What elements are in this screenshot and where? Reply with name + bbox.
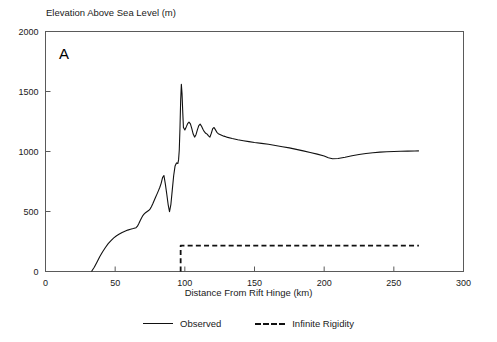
legend-swatch-solid [143,323,173,324]
x-tick-label: 0 [43,278,48,288]
legend-item: Observed [143,318,221,329]
x-tick-label: 150 [247,278,262,288]
legend-swatch-dashed [255,323,285,325]
series-line-1 [181,246,419,272]
panel-label: A [59,45,69,62]
y-tick-label: 500 [0,207,39,217]
legend-label: Infinite Rigidity [292,318,354,329]
y-axis-label: Elevation Above Sea Level (m) [46,7,176,18]
legend-label: Observed [180,318,221,329]
x-tick-label: 100 [177,278,192,288]
y-tick-label: 1500 [0,87,39,97]
y-tick-label: 2000 [0,27,39,37]
legend-item: Infinite Rigidity [255,318,354,329]
series-line-0 [91,84,418,271]
chart-legend: ObservedInfinite Rigidity [0,318,497,329]
y-tick-label: 1000 [0,147,39,157]
figure-container: Elevation Above Sea Level (m) A 05001000… [0,0,497,342]
x-tick-label: 250 [386,278,401,288]
x-tick-label: 50 [110,278,120,288]
y-tick-label: 0 [0,267,39,277]
x-tick-label: 300 [456,278,471,288]
x-axis-label: Distance From Rift Hinge (km) [0,287,497,298]
x-tick-label: 200 [317,278,332,288]
series-layer [91,84,418,271]
